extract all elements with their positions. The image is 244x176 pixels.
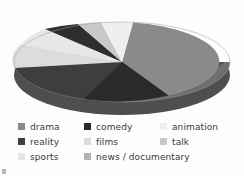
- page-corner-mark: [2, 169, 6, 174]
- legend-swatch-drama: [18, 123, 25, 130]
- legend-swatch-talk: [160, 138, 167, 145]
- pie-svg: [0, 0, 244, 118]
- legend-label-drama: drama: [30, 122, 60, 132]
- legend-label-animation: animation: [172, 122, 218, 132]
- chart-legend: drama comedy animation reality films tal…: [18, 119, 230, 164]
- legend-item-animation[interactable]: animation: [160, 119, 230, 134]
- legend-label-news-documentary: news / documentary: [96, 152, 190, 162]
- legend-item-films[interactable]: films: [84, 134, 160, 149]
- legend-swatch-news-documentary: [84, 153, 91, 160]
- legend-swatch-comedy: [84, 123, 91, 130]
- legend-item-drama[interactable]: drama: [18, 119, 84, 134]
- legend-label-reality: reality: [30, 137, 59, 147]
- pie-slices: [12, 22, 219, 102]
- legend-item-sports[interactable]: sports: [18, 149, 84, 164]
- legend-label-comedy: comedy: [96, 122, 132, 132]
- legend-swatch-reality: [18, 138, 25, 145]
- legend-label-talk: talk: [172, 137, 189, 147]
- legend-item-comedy[interactable]: comedy: [84, 119, 160, 134]
- legend-item-talk[interactable]: talk: [160, 134, 230, 149]
- legend-item-reality[interactable]: reality: [18, 134, 84, 149]
- legend-label-sports: sports: [30, 152, 58, 162]
- legend-label-films: films: [96, 137, 118, 147]
- legend-swatch-animation: [160, 123, 167, 130]
- legend-swatch-sports: [18, 153, 25, 160]
- legend-item-news-documentary[interactable]: news / documentary: [84, 149, 230, 164]
- pie-chart-figure: drama comedy animation reality films tal…: [0, 0, 244, 176]
- legend-swatch-films: [84, 138, 91, 145]
- pie-chart-graphic: [0, 0, 244, 118]
